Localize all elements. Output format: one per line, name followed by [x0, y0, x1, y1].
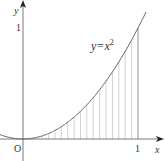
curve-label-exponent: 2	[110, 38, 114, 47]
curve-label: y=x2	[90, 38, 114, 53]
shaded-region-hatch	[29, 40, 131, 139]
x-tick-label: 1	[135, 143, 140, 154]
parabola-area-diagram: y 1 O 1 x y=x2	[0, 0, 165, 161]
curve-label-base: y=x	[90, 39, 110, 53]
y-axis-label: y	[13, 5, 19, 16]
origin-label: O	[14, 143, 21, 154]
x-axis-label: x	[154, 144, 160, 155]
parabola-curve	[0, 12, 146, 139]
y-tick-label: 1	[16, 22, 21, 33]
